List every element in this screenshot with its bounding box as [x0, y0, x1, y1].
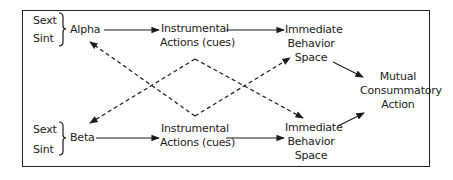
arrow-immediate-top-to-mutual	[333, 62, 363, 77]
immediate-line-1: Immediate	[285, 23, 337, 37]
immediate-line-2: Behavior	[285, 135, 337, 149]
dashed-top-instr-to-immediate-bottom	[195, 59, 303, 118]
instrumental-line-1: Instrumental	[160, 122, 230, 136]
agent-beta: Beta	[70, 131, 95, 145]
state-sext-top: Sext	[33, 12, 57, 30]
immediate-behavior-space-top: Immediate Behavior Space	[285, 23, 337, 65]
immediate-line-3: Space	[285, 51, 337, 65]
immediate-behavior-space-bottom: Immediate Behavior Space	[285, 121, 337, 163]
state-sint-top: Sint	[33, 30, 57, 48]
instrumental-actions-bottom: Instrumental Actions (cues)	[160, 122, 230, 150]
immediate-line-1: Immediate	[285, 121, 337, 135]
immediate-line-3: Space	[285, 149, 337, 163]
state-sext-bottom: Sext	[33, 120, 57, 140]
states-bottom: Sext Sint	[33, 120, 57, 160]
dashed-bottom-instr-to-alpha	[90, 42, 195, 116]
bracket-bottom	[59, 122, 66, 155]
outcome-line-3: Action	[360, 98, 436, 112]
outcome-line-2: Consummatory	[360, 84, 436, 98]
instrumental-line-2: Actions (cues)	[160, 136, 230, 150]
state-sint-bottom: Sint	[33, 140, 57, 160]
instrumental-actions-top: Instrumental Actions (cues)	[160, 22, 230, 50]
outcome-line-1: Mutual	[360, 70, 436, 84]
immediate-line-2: Behavior	[285, 37, 337, 51]
dashed-top-instr-to-beta	[90, 59, 195, 123]
mutual-consummatory-action: Mutual Consummatory Action	[360, 70, 436, 112]
states-top: Sext Sint	[33, 12, 57, 48]
instrumental-line-1: Instrumental	[160, 22, 230, 36]
agent-alpha: Alpha	[70, 23, 100, 37]
bracket-top	[59, 13, 66, 46]
instrumental-line-2: Actions (cues)	[160, 36, 230, 50]
